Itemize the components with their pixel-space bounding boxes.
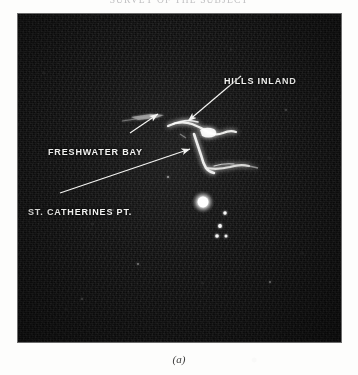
radar-ppi-photograph: HILLS INLAND FRESHWATER BAY ST. CATHERIN… — [18, 14, 341, 342]
arrow-freshwater-bay — [130, 114, 158, 133]
figure-caption: (a) — [0, 353, 358, 365]
figure-plate-container: HILLS INLAND FRESHWATER BAY ST. CATHERIN… — [18, 14, 341, 342]
annotation-label-hills-inland: HILLS INLAND — [224, 76, 297, 86]
scanned-page: SURVEY OF THE SUBJECT — [0, 0, 358, 375]
running-head: SURVEY OF THE SUBJECT — [0, 0, 358, 3]
annotation-label-freshwater-bay: FRESHWATER BAY — [48, 147, 143, 157]
annotation-arrow-layer — [18, 14, 341, 342]
annotation-label-st-catherines-pt: ST. CATHERINES PT. — [28, 207, 132, 217]
